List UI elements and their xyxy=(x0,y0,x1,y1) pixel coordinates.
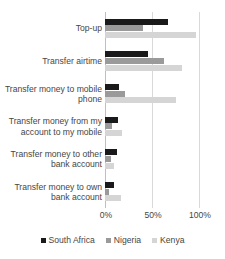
legend-swatch-icon xyxy=(152,238,157,243)
gridline-100 xyxy=(199,12,200,208)
bar xyxy=(105,189,109,195)
bar xyxy=(105,123,112,129)
bar xyxy=(105,156,111,162)
x-tick-label: 0% xyxy=(100,210,112,220)
legend-label: Nigeria xyxy=(114,235,141,245)
legend-item-kenya: Kenya xyxy=(152,235,184,245)
bar xyxy=(105,58,164,64)
bar xyxy=(105,84,119,90)
category-label: Transfer money from my account to my mob… xyxy=(0,116,102,136)
bar xyxy=(105,195,121,201)
legend-label: South Africa xyxy=(49,235,95,245)
category-label: Transfer money to mobile phone xyxy=(0,84,102,104)
bar xyxy=(105,51,148,57)
category-label: Transfer money to own bank account xyxy=(0,182,102,202)
bar xyxy=(105,149,117,155)
bar xyxy=(105,32,196,38)
category-label: Transfer airtime xyxy=(0,56,102,66)
bar xyxy=(105,25,143,31)
plot-area xyxy=(105,12,200,208)
category-label: Transfer money to other bank account xyxy=(0,149,102,169)
legend-swatch-icon xyxy=(41,238,46,243)
chart-legend: South Africa Nigeria Kenya xyxy=(0,235,225,245)
bar xyxy=(105,117,118,123)
bar xyxy=(105,182,114,188)
bar xyxy=(105,130,122,136)
x-tick-label: 50% xyxy=(144,210,161,220)
gridline-50 xyxy=(152,12,153,208)
bar xyxy=(105,97,176,103)
bar xyxy=(105,19,168,25)
category-label: Top-up xyxy=(0,23,102,33)
legend-swatch-icon xyxy=(106,238,111,243)
x-tick-label: 100% xyxy=(189,210,211,220)
bar xyxy=(105,163,114,169)
legend-label: Kenya xyxy=(160,235,184,245)
bar xyxy=(105,65,182,71)
legend-item-south-africa: South Africa xyxy=(41,235,95,245)
y-axis-line xyxy=(105,12,106,208)
bar xyxy=(105,91,125,97)
legend-item-nigeria: Nigeria xyxy=(106,235,141,245)
x-axis-ticks: 0% 50% 100% xyxy=(0,210,225,224)
bar-chart: Top-up Transfer airtime Transfer money t… xyxy=(0,0,225,259)
